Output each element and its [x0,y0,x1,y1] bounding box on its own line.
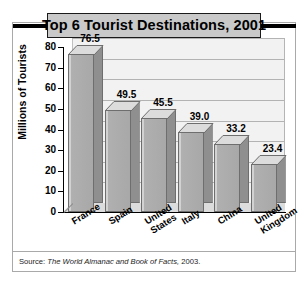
y-axis-tick [58,130,63,131]
bar-front-face [214,144,240,212]
bar: 76.5 [68,54,94,212]
gridline [72,59,285,60]
axis-origin-connector [63,203,73,213]
gridline [72,79,285,80]
source-publication: The World Almanac and Book of Facts, [47,257,179,266]
y-axis-tick [58,191,63,192]
source-note: Source: The World Almanac and Book of Fa… [19,257,200,266]
bar-value-label: 76.5 [67,33,113,44]
bar-front-face [178,132,204,212]
chart-figure: Top 6 Tourist Destinations, 2001 Million… [0,0,308,282]
bar-value-label: 33.2 [213,123,259,134]
y-axis-tick [58,212,63,213]
y-axis-tick-label: 20 [45,163,56,179]
y-axis-line [63,47,64,213]
bar-value-label: 23.4 [250,143,296,154]
bar: 49.5 [105,110,131,212]
y-axis-tick [58,109,63,110]
source-prefix: Source: [19,257,45,266]
y-axis-tick-label: 10 [45,183,56,199]
y-axis-tick-label: 40 [45,122,56,138]
y-axis-tick [58,150,63,151]
bar-front-face [141,118,167,212]
bar-side-face [94,45,103,203]
y-axis-tick-label: 30 [45,142,56,158]
source-year: 2003. [181,257,200,266]
bar-value-label: 45.5 [140,97,186,108]
y-axis-tick-label: 70 [45,60,56,76]
y-axis-tick-label: 60 [45,80,56,96]
bar-side-face [131,101,140,203]
y-axis-tick [58,68,63,69]
bar-side-face [167,109,176,203]
bar: 39.0 [178,132,204,212]
bar-side-face [204,123,213,203]
bar-front-face [68,54,94,212]
plot-area: 76.549.545.539.033.223.4 010203040506070… [63,47,285,212]
y-axis-tick [58,88,63,89]
bar-value-label: 39.0 [177,111,223,122]
y-axis-tick-label: 50 [45,101,56,117]
y-axis-tick-labels: 01020304050607080 [23,39,56,221]
y-axis-tick-label: 0 [50,204,56,220]
source-divider [13,251,295,252]
chart-title: Top 6 Tourist Destinations, 2001 [42,18,266,33]
y-axis-tick [58,171,63,172]
y-axis-tick [58,47,63,48]
y-axis-tick-label: 80 [45,39,56,55]
bar: 45.5 [141,118,167,212]
bar-front-face [105,110,131,212]
bar: 33.2 [214,144,240,212]
